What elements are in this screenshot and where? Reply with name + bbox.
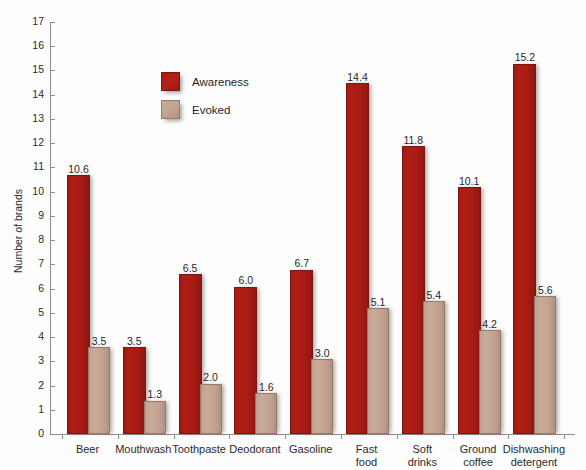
bar-value-label: 5.1 xyxy=(371,297,386,308)
legend-swatch-awareness-icon xyxy=(161,72,180,91)
bar-value-label: 15.2 xyxy=(515,52,535,63)
bar-value-label: 6.5 xyxy=(183,263,198,274)
x-tick-1 xyxy=(118,434,119,439)
y-tick-label-9: 9 xyxy=(22,210,44,221)
bar-awareness-7: 10.1 xyxy=(458,187,481,434)
y-tick-label-2: 2 xyxy=(22,380,44,391)
y-tick-label-11: 11 xyxy=(22,161,44,172)
y-tick-15 xyxy=(50,70,55,71)
y-tick-12 xyxy=(50,143,55,144)
bar-evoked-4: 3.0 xyxy=(311,359,333,434)
y-tick-1 xyxy=(50,410,55,411)
bar-awareness-0: 10.6 xyxy=(67,175,90,434)
y-tick-8 xyxy=(50,240,55,241)
x-tick-7 xyxy=(453,434,454,439)
bar-evoked-5: 5.1 xyxy=(367,308,389,434)
x-tick-0 xyxy=(62,434,63,439)
bar-value-label: 11.8 xyxy=(403,135,423,146)
bar-evoked-2: 2.0 xyxy=(200,384,222,434)
bar-value-label: 6.7 xyxy=(294,258,309,269)
bar-awareness-6: 11.8 xyxy=(402,146,425,434)
x-tick-8 xyxy=(508,434,509,439)
y-tick-13 xyxy=(50,119,55,120)
y-tick-16 xyxy=(50,46,55,47)
y-tick-11 xyxy=(50,167,55,168)
y-tick-label-5: 5 xyxy=(22,307,44,318)
bar-value-label: 3.0 xyxy=(315,348,330,359)
y-tick-label-4: 4 xyxy=(22,331,44,342)
y-tick-2 xyxy=(50,386,55,387)
y-tick-label-16: 16 xyxy=(22,40,44,51)
y-tick-5 xyxy=(50,313,55,314)
bar-value-label: 1.6 xyxy=(259,382,274,393)
legend-item-evoked: Evoked xyxy=(161,100,230,119)
bar-value-label: 3.5 xyxy=(127,336,142,347)
y-tick-label-12: 12 xyxy=(22,137,44,148)
bar-chart: Number of brands 01234567891011121314151… xyxy=(0,0,586,470)
bar-value-label: 14.4 xyxy=(347,72,367,83)
bar-evoked-8: 5.6 xyxy=(534,296,556,434)
y-tick-label-1: 1 xyxy=(22,404,44,415)
y-tick-0 xyxy=(50,434,55,435)
y-tick-label-6: 6 xyxy=(22,283,44,294)
bar-value-label: 5.4 xyxy=(426,290,441,301)
bar-awareness-2: 6.5 xyxy=(179,274,202,434)
y-tick-10 xyxy=(50,192,55,193)
bar-evoked-6: 5.4 xyxy=(423,301,445,434)
x-tick-5 xyxy=(341,434,342,439)
y-tick-label-7: 7 xyxy=(22,258,44,269)
y-tick-14 xyxy=(50,95,55,96)
category-label-8: Dishwashing detergent xyxy=(494,443,574,469)
y-tick-3 xyxy=(50,361,55,362)
bar-value-label: 6.0 xyxy=(239,275,254,286)
bar-awareness-5: 14.4 xyxy=(346,83,369,434)
bar-value-label: 1.3 xyxy=(147,389,162,400)
y-tick-4 xyxy=(50,337,55,338)
y-tick-label-0: 0 xyxy=(22,428,44,439)
bar-value-label: 3.5 xyxy=(92,336,107,347)
y-tick-label-14: 14 xyxy=(22,89,44,100)
y-tick-17 xyxy=(50,22,55,23)
bar-value-label: 10.6 xyxy=(68,164,88,175)
y-tick-label-13: 13 xyxy=(22,113,44,124)
bar-awareness-8: 15.2 xyxy=(513,64,536,434)
y-tick-7 xyxy=(50,264,55,265)
bar-evoked-7: 4.2 xyxy=(479,330,501,434)
y-tick-label-10: 10 xyxy=(22,186,44,197)
bar-value-label: 4.2 xyxy=(482,319,497,330)
y-tick-label-8: 8 xyxy=(22,234,44,245)
bar-value-label: 2.0 xyxy=(203,372,218,383)
bar-value-label: 10.1 xyxy=(459,176,479,187)
x-tick-2 xyxy=(174,434,175,439)
bar-evoked-1: 1.3 xyxy=(144,401,166,435)
legend-swatch-evoked-icon xyxy=(161,100,180,119)
legend-label-awareness: Awareness xyxy=(192,76,249,88)
legend-label-evoked: Evoked xyxy=(192,104,230,116)
legend-item-awareness: Awareness xyxy=(161,72,249,91)
bar-awareness-4: 6.7 xyxy=(290,270,313,434)
bar-evoked-3: 1.6 xyxy=(255,393,277,434)
y-axis-line xyxy=(50,22,51,434)
y-tick-9 xyxy=(50,216,55,217)
bar-value-label: 5.6 xyxy=(538,285,553,296)
y-tick-6 xyxy=(50,289,55,290)
x-tick-4 xyxy=(285,434,286,439)
x-tick-3 xyxy=(229,434,230,439)
x-tick-6 xyxy=(397,434,398,439)
y-tick-label-3: 3 xyxy=(22,355,44,366)
x-tick-9 xyxy=(564,434,565,439)
y-tick-label-15: 15 xyxy=(22,64,44,75)
y-tick-label-17: 17 xyxy=(22,16,44,27)
bar-awareness-3: 6.0 xyxy=(234,287,257,434)
x-axis-line xyxy=(50,434,575,435)
bar-evoked-0: 3.5 xyxy=(88,347,110,434)
bar-awareness-1: 3.5 xyxy=(123,347,146,434)
